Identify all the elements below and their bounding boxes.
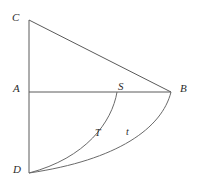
vertex-label-B: B: [180, 83, 187, 94]
geometry-figure: C A B D S T t: [0, 0, 197, 189]
point-label-S: S: [118, 81, 124, 92]
curve-label-t: t: [126, 127, 129, 137]
vertex-label-D: D: [13, 164, 21, 175]
figure-canvas: [0, 0, 197, 189]
vertex-label-C: C: [12, 12, 19, 23]
curve-S-to-D: [29, 92, 117, 173]
curve-label-T: T: [95, 128, 101, 138]
vertex-label-A: A: [13, 83, 20, 94]
segment-CB: [29, 20, 171, 92]
